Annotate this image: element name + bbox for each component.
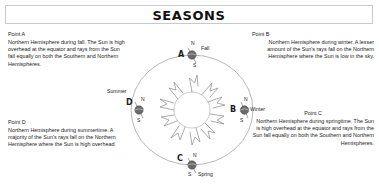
text-block-point-a: Point A Northern Hemisphere during fall.… — [8, 31, 126, 68]
point-a-heading: Point A — [8, 31, 126, 38]
point-c-season-label: Spring — [198, 171, 213, 177]
point-c-south-label: S — [188, 171, 191, 177]
point-a-north-label: N — [191, 40, 195, 46]
page-title: SEASONS — [6, 6, 372, 25]
point-d-marker: D — [126, 98, 133, 107]
earth-at-point-b — [240, 102, 248, 118]
point-d-heading: Point D — [8, 119, 126, 126]
point-a-body: Northern Hemisphere during fall. The Sun… — [8, 39, 126, 68]
point-c-north-label: N — [193, 152, 197, 158]
point-d-south-label: S — [137, 117, 140, 123]
point-c-body: Northern Hemisphere during springtime. T… — [252, 118, 374, 147]
seasons-diagram-page: SEASONS Point A Northern Hemisphere duri… — [0, 0, 379, 189]
point-c-marker: C — [177, 154, 183, 163]
point-b-heading: Point B — [252, 31, 374, 38]
point-b-body: Northern Hemisphere during winter. A les… — [252, 39, 374, 61]
point-d-north-label: N — [141, 96, 145, 102]
point-b-marker: B — [230, 105, 236, 114]
point-a-marker: A — [178, 50, 184, 59]
point-b-north-label: N — [244, 96, 248, 102]
point-c-heading: Point C — [252, 110, 374, 117]
text-block-point-d: Point D Northern Hemisphere during summe… — [8, 119, 126, 149]
earth-at-point-d — [135, 102, 143, 118]
sun-icon — [160, 75, 225, 145]
point-a-season-label: Fall — [201, 45, 209, 51]
orbit-diagram: A N S Fall B N S Winter C N S Spring D N… — [126, 26, 256, 189]
point-a-south-label: S — [193, 62, 196, 68]
text-block-point-c: Point C Northern Hemisphere during sprin… — [252, 110, 374, 147]
orbit-diagram-svg — [126, 26, 256, 189]
point-d-season-label: Summer — [107, 88, 127, 94]
point-d-body: Northern Hemisphere during summertime. A… — [8, 127, 126, 149]
title-box: SEASONS — [5, 5, 373, 24]
text-block-point-b: Point B Northern Hemisphere during winte… — [252, 31, 374, 61]
point-b-season-label: Winter — [250, 106, 265, 112]
point-b-south-label: S — [240, 117, 243, 123]
earth-at-point-a — [188, 48, 196, 63]
